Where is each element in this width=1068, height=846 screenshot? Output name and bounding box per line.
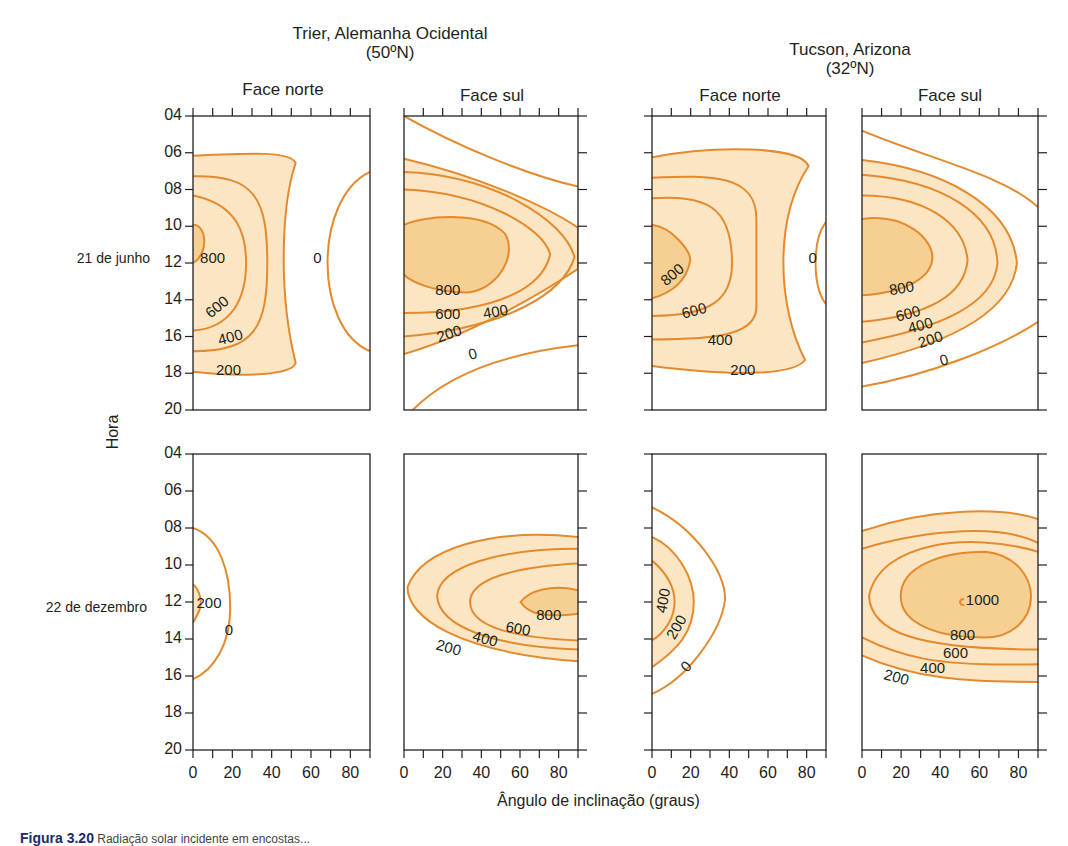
x-tick-label: 40 — [925, 764, 955, 782]
y-tick-label: 16 — [152, 666, 182, 684]
contour-label: 800 — [536, 606, 561, 623]
caption-text: Radiação solar incidente em encostas... — [97, 832, 310, 846]
contour-line — [328, 172, 370, 351]
y-tick-label: 16 — [152, 327, 182, 345]
contour-panel-december-0: 2000 — [193, 454, 370, 750]
face-title: Face sul — [404, 86, 580, 106]
contour-label: 400 — [708, 331, 733, 348]
x-tick-label: 60 — [296, 764, 326, 782]
y-tick-label: 10 — [152, 216, 182, 234]
x-tick-label: 20 — [886, 764, 916, 782]
x-tick-label: 80 — [1003, 764, 1033, 782]
y-tick-label: 08 — [152, 180, 182, 198]
x-tick-label: 60 — [964, 764, 994, 782]
row-label-june: 21 de junho — [0, 250, 150, 266]
face-title: Face sul — [862, 86, 1038, 106]
figure-caption: Figura 3.20 Radiação solar incidente em … — [20, 830, 310, 846]
x-tick-label: 40 — [257, 764, 287, 782]
site-name: Trier, Alemanha Ocidental — [200, 24, 580, 43]
y-tick-label: 04 — [152, 444, 182, 462]
contour-label: 0 — [313, 249, 321, 266]
x-tick-label: 0 — [847, 764, 877, 782]
contour-line — [413, 345, 578, 410]
x-tick-label: 20 — [217, 764, 247, 782]
site-latitude: (50ºN) — [200, 43, 580, 62]
contour-label: 600 — [943, 644, 968, 661]
y-tick-label: 20 — [152, 740, 182, 758]
y-tick-label: 18 — [152, 703, 182, 721]
contour-label: 200 — [216, 361, 241, 378]
contour-label: 400 — [482, 301, 510, 322]
y-tick-label: 08 — [152, 518, 182, 536]
contour-label: 600 — [435, 305, 460, 322]
y-tick-label: 06 — [152, 481, 182, 499]
x-tick-label: 80 — [544, 764, 574, 782]
y-tick-label: 04 — [152, 106, 182, 124]
y-tick-label: 20 — [152, 400, 182, 418]
contour-label: 800 — [950, 626, 975, 643]
site-title-trier: Trier, Alemanha Ocidental (50ºN) — [200, 24, 580, 62]
x-tick-label: 0 — [637, 764, 667, 782]
caption-prefix: Figura 3.20 — [20, 830, 94, 846]
y-tick-label: 06 — [152, 143, 182, 161]
contour-label: 0 — [225, 621, 233, 638]
x-axis-title: Ângulo de inclinação (graus) — [497, 792, 700, 810]
y-axis-title: Hora — [104, 415, 122, 450]
x-tick-label: 20 — [428, 764, 458, 782]
contour-panel-june-1: 8006004002000 — [404, 116, 578, 410]
site-title-tucson: Tucson, Arizona (32ºN) — [660, 40, 1040, 78]
contour-label: 0 — [466, 344, 478, 363]
contour-line — [816, 222, 826, 304]
contour-panel-december-3: 1000800600400200 — [862, 454, 1038, 750]
contour-label: 1000 — [966, 591, 999, 608]
face-title: Face norte — [193, 80, 373, 100]
y-tick-label: 18 — [152, 363, 182, 381]
face-title: Face norte — [652, 86, 828, 106]
site-name: Tucson, Arizona — [660, 40, 1040, 59]
y-tick-label: 12 — [152, 592, 182, 610]
contour-panel-june-2: 8006004002000 — [652, 116, 826, 410]
contour-panel-june-3: 8006004002000 — [862, 116, 1038, 410]
x-tick-label: 60 — [505, 764, 535, 782]
contour-panel-june-0: 8000600400200 — [193, 116, 370, 410]
contour-label: 800 — [200, 249, 225, 266]
contour-panel-december-2: 4002000 — [652, 454, 826, 750]
contour-label: 200 — [730, 361, 755, 378]
site-latitude: (32ºN) — [660, 59, 1040, 78]
x-tick-label: 60 — [753, 764, 783, 782]
y-tick-label: 14 — [152, 290, 182, 308]
contour-label: 200 — [435, 636, 464, 659]
y-tick-label: 10 — [152, 555, 182, 573]
contour-label: 0 — [677, 657, 695, 675]
y-tick-label: 12 — [152, 253, 182, 271]
x-tick-label: 40 — [466, 764, 496, 782]
y-tick-label: 14 — [152, 629, 182, 647]
x-tick-label: 40 — [714, 764, 744, 782]
x-tick-label: 80 — [335, 764, 365, 782]
x-tick-label: 0 — [178, 764, 208, 782]
x-tick-label: 0 — [389, 764, 419, 782]
x-tick-label: 20 — [676, 764, 706, 782]
contour-panel-december-1: 800600400200 — [404, 454, 578, 750]
contour-label: 200 — [197, 594, 222, 611]
contour-label: 400 — [920, 659, 945, 676]
x-tick-label: 80 — [792, 764, 822, 782]
row-label-december: 22 de dezembro — [0, 599, 147, 615]
contour-label: 0 — [809, 249, 817, 266]
contour-label: 800 — [435, 281, 460, 298]
